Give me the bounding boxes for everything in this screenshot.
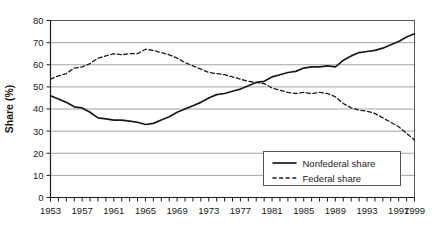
y-tick-label: 10: [33, 170, 44, 181]
x-tick-label: 1999: [404, 205, 425, 216]
y-axis-ticks: 01020304050607080: [33, 15, 51, 203]
x-tick-label: 1957: [72, 205, 93, 216]
y-tick-label: 60: [33, 59, 44, 70]
legend-label: Federal share: [303, 173, 362, 184]
x-tick-label: 1977: [230, 205, 251, 216]
x-tick-label: 1993: [356, 205, 377, 216]
x-tick-label: 1989: [325, 205, 346, 216]
x-tick-label: 1985: [293, 205, 314, 216]
x-axis-ticks: 1953195719611965196919731977198119851989…: [40, 198, 425, 216]
x-tick-label: 1969: [167, 205, 188, 216]
x-tick-label: 1973: [198, 205, 219, 216]
y-tick-label: 40: [33, 103, 44, 114]
y-tick-label: 80: [33, 15, 44, 26]
y-tick-label: 20: [33, 148, 44, 159]
axis-titles: Share (%): [3, 85, 15, 133]
legend-label: Nonfederal share: [303, 158, 376, 169]
y-axis-title: Share (%): [3, 85, 15, 133]
x-tick-label: 1981: [261, 205, 282, 216]
y-tick-label: 50: [33, 81, 44, 92]
y-tick-label: 30: [33, 126, 44, 137]
chart-container: 01020304050607080 1953195719611965196919…: [0, 0, 432, 235]
share-line-chart: 01020304050607080 1953195719611965196919…: [0, 0, 432, 235]
y-tick-label: 0: [38, 192, 43, 203]
x-tick-label: 1953: [40, 205, 61, 216]
x-tick-label: 1965: [135, 205, 156, 216]
chart-legend: Nonfederal shareFederal share: [264, 152, 401, 186]
y-tick-label: 70: [33, 37, 44, 48]
x-tick-label: 1961: [103, 205, 124, 216]
